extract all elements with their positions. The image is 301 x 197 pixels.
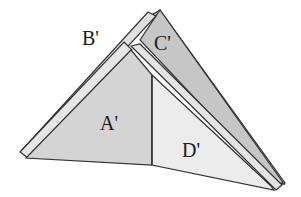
label-b: B'	[82, 27, 99, 49]
face-a	[26, 50, 152, 165]
label-d: D'	[182, 139, 200, 161]
label-a: A'	[100, 112, 118, 134]
label-c: C'	[154, 32, 171, 54]
folded-pyramid-diagram: B' C' A' D'	[0, 0, 301, 197]
